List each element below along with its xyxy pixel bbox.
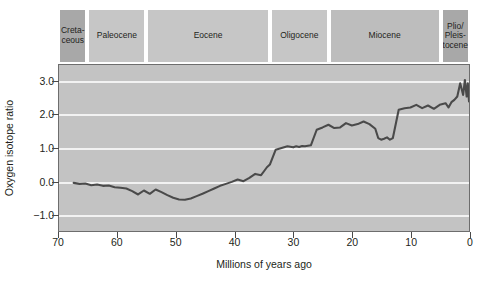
y-tick-label: 2.0: [20, 108, 54, 120]
x-tick-mark: [293, 232, 294, 238]
x-tick-mark: [411, 232, 412, 238]
x-tick-mark: [176, 232, 177, 238]
y-tick-label: 1.0: [20, 142, 54, 154]
epoch-label: Paleocene: [96, 31, 138, 41]
epoch-label: Miocene: [368, 31, 402, 41]
epoch-label: Plio/Pleis-tocene: [442, 22, 470, 51]
x-tick-mark: [352, 232, 353, 238]
y-tick-mark: [52, 81, 59, 82]
y-tick-label: 0.0: [20, 176, 54, 188]
epoch-band-plio: Plio/Pleis-tocene: [441, 10, 470, 62]
epoch-label: Creta-ceous: [60, 26, 86, 45]
epoch-band-strip: Creta-ceousPaleoceneEoceneOligoceneMioce…: [58, 10, 470, 62]
y-tick-mark: [52, 182, 59, 183]
y-tick-mark: [52, 114, 59, 115]
x-tick-mark: [470, 232, 471, 238]
epoch-band-paleocene: Paleocene: [87, 10, 146, 62]
y-tick-mark: [52, 215, 59, 216]
x-tick-mark: [58, 232, 59, 238]
data-curve: [59, 65, 469, 231]
epoch-band-oligocene: Oligocene: [270, 10, 329, 62]
y-tick-label: 3.0: [20, 75, 54, 87]
oxygen-isotope-chart: Creta-ceousPaleoceneEoceneOligoceneMioce…: [0, 0, 488, 285]
x-tick-mark: [235, 232, 236, 238]
plot-area: [58, 64, 470, 232]
epoch-band-eocene: Eocene: [146, 10, 270, 62]
epoch-label: Oligocene: [279, 31, 319, 41]
epoch-band-creta: Creta-ceous: [58, 10, 87, 62]
y-axis-ticks: −1.00.01.02.03.0: [14, 0, 54, 285]
epoch-band-miocene: Miocene: [329, 10, 441, 62]
y-tick-mark: [52, 148, 59, 149]
x-tick-mark: [117, 232, 118, 238]
x-axis-title: Millions of years ago: [58, 258, 470, 270]
epoch-label: Eocene: [193, 31, 224, 41]
y-tick-label: −1.0: [20, 209, 54, 221]
isotope-ratio-line: [74, 80, 469, 200]
